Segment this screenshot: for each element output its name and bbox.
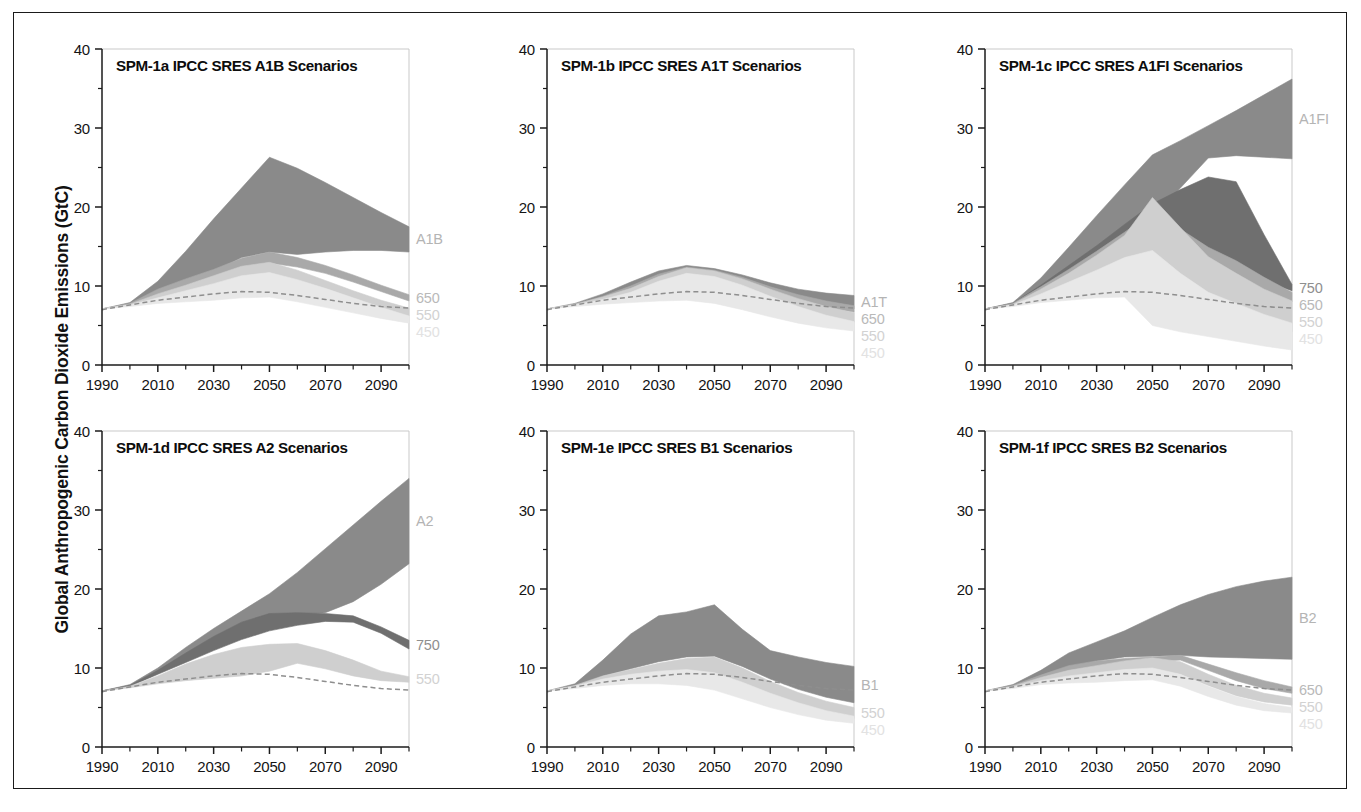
x-tick-label: 1990 — [531, 376, 564, 393]
x-tick-label: 2030 — [642, 376, 675, 393]
x-tick-label: 2070 — [754, 758, 787, 775]
band-550 — [102, 644, 409, 691]
x-tick-label: 2070 — [309, 376, 342, 393]
y-tick-label: 30 — [957, 120, 973, 137]
y-tick-label: 10 — [519, 278, 535, 295]
y-tick-label: 10 — [957, 278, 973, 295]
chart-panel-spm-1a: 010203040199020102030205020702090SPM-1a … — [24, 23, 464, 408]
y-tick-label: 20 — [957, 581, 973, 598]
side-label-650: 650 — [416, 290, 440, 306]
y-tick-label: 10 — [74, 278, 90, 295]
x-tick-label: 2090 — [810, 376, 843, 393]
panel-title: SPM-1a IPCC SRES A1B Scenarios — [116, 57, 357, 74]
side-label-650: 650 — [861, 311, 885, 327]
side-label-A2: A2 — [416, 513, 433, 529]
y-tick-label: 20 — [957, 199, 973, 216]
x-tick-label: 2010 — [142, 758, 175, 775]
side-label-550: 550 — [416, 671, 440, 687]
y-tick-label: 0 — [82, 739, 90, 756]
side-label-450: 450 — [416, 324, 440, 340]
x-tick-label: 2050 — [253, 376, 286, 393]
y-tick-label: 30 — [957, 502, 973, 519]
x-tick-label: 1990 — [86, 758, 119, 775]
x-tick-label: 2010 — [1025, 376, 1058, 393]
x-tick-label: 1990 — [531, 758, 564, 775]
band-B1 — [547, 605, 854, 703]
panel-title: SPM-1e IPCC SRES B1 Scenarios — [561, 439, 792, 456]
y-tick-label: 0 — [527, 357, 535, 374]
side-label-550: 550 — [861, 705, 885, 721]
side-label-450: 450 — [861, 345, 885, 361]
chart-panel-spm-1b: 010203040199020102030205020702090SPM-1b … — [469, 23, 909, 408]
y-tick-label: 40 — [957, 423, 973, 440]
x-tick-label: 2010 — [142, 376, 175, 393]
y-tick-label: 0 — [82, 357, 90, 374]
x-tick-label: 2050 — [698, 758, 731, 775]
band-group — [985, 577, 1292, 713]
side-label-550: 550 — [861, 328, 885, 344]
panel-title: SPM-1d IPCC SRES A2 Scenarios — [116, 439, 348, 456]
x-tick-label: 2090 — [1248, 376, 1281, 393]
chart-panel-spm-1d: 010203040199020102030205020702090SPM-1d … — [24, 405, 464, 790]
x-tick-label: 2070 — [1192, 376, 1225, 393]
side-label-550: 550 — [416, 307, 440, 323]
side-label-A1T: A1T — [861, 294, 887, 310]
y-tick-label: 30 — [74, 120, 90, 137]
band-group — [102, 478, 409, 691]
y-tick-label: 0 — [965, 739, 973, 756]
y-tick-label: 0 — [527, 739, 535, 756]
side-label-450: 450 — [861, 722, 885, 738]
x-tick-label: 2010 — [587, 376, 620, 393]
side-label-B1: B1 — [861, 677, 878, 693]
y-tick-label: 30 — [519, 502, 535, 519]
chart-panel-spm-1f: 010203040199020102030205020702090SPM-1f … — [907, 405, 1347, 790]
side-label-A1B: A1B — [416, 231, 443, 247]
side-label-A1FI: A1FI — [1299, 111, 1329, 127]
y-tick-label: 40 — [957, 41, 973, 58]
side-label-450: 450 — [1299, 716, 1323, 732]
x-tick-label: 2050 — [253, 758, 286, 775]
x-tick-label: 2050 — [1136, 758, 1169, 775]
y-tick-label: 30 — [519, 120, 535, 137]
x-tick-label: 1990 — [86, 376, 119, 393]
chart-panel-spm-1e: 010203040199020102030205020702090SPM-1e … — [469, 405, 909, 790]
figure-outer-frame: Global Anthropogenic Carbon Dioxide Emis… — [13, 12, 1347, 789]
x-tick-label: 2090 — [810, 758, 843, 775]
y-tick-label: 20 — [74, 581, 90, 598]
x-tick-label: 2070 — [1192, 758, 1225, 775]
y-tick-label: 10 — [957, 660, 973, 677]
x-tick-label: 2010 — [1025, 758, 1058, 775]
side-label-750: 750 — [1299, 280, 1323, 296]
x-tick-label: 2070 — [754, 376, 787, 393]
x-tick-label: 2090 — [1248, 758, 1281, 775]
x-tick-label: 2030 — [197, 376, 230, 393]
x-tick-label: 2050 — [1136, 376, 1169, 393]
figure-root: Global Anthropogenic Carbon Dioxide Emis… — [0, 0, 1361, 812]
y-tick-label: 20 — [519, 581, 535, 598]
y-tick-label: 20 — [74, 199, 90, 216]
side-label-650: 650 — [1299, 297, 1323, 313]
band-group — [985, 79, 1292, 350]
x-tick-label: 2090 — [365, 376, 398, 393]
x-tick-label: 2030 — [642, 758, 675, 775]
panel-title: SPM-1f IPCC SRES B2 Scenarios — [999, 439, 1227, 456]
band-group — [547, 265, 854, 331]
y-tick-label: 40 — [519, 423, 535, 440]
x-tick-label: 2030 — [1080, 758, 1113, 775]
x-tick-label: 2010 — [587, 758, 620, 775]
panel-title: SPM-1b IPCC SRES A1T Scenarios — [561, 57, 801, 74]
y-tick-label: 10 — [74, 660, 90, 677]
side-label-750: 750 — [416, 637, 440, 653]
x-tick-label: 2030 — [1080, 376, 1113, 393]
y-tick-label: 10 — [519, 660, 535, 677]
x-tick-label: 2030 — [197, 758, 230, 775]
y-tick-label: 40 — [519, 41, 535, 58]
y-tick-label: 20 — [519, 199, 535, 216]
y-tick-label: 0 — [965, 357, 973, 374]
y-tick-label: 40 — [74, 423, 90, 440]
x-tick-label: 2050 — [698, 376, 731, 393]
x-tick-label: 2070 — [309, 758, 342, 775]
band-group — [547, 605, 854, 724]
side-label-550: 550 — [1299, 699, 1323, 715]
panel-title: SPM-1c IPCC SRES A1FI Scenarios — [999, 57, 1242, 74]
